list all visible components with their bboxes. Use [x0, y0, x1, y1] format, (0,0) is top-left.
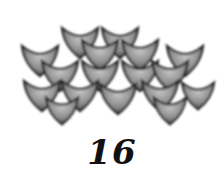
scale-pattern-icon — [0, 0, 224, 130]
page-number: 16 — [0, 132, 224, 172]
